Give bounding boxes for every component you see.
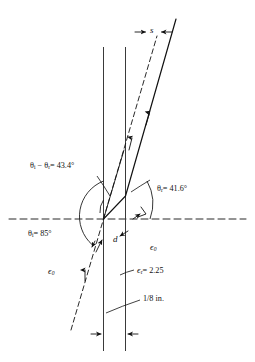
optics-ray-diagram: θi − θr= 43.4° θr= 41.6° θi= 85° ϵ0 ϵ0 ϵ…: [0, 0, 255, 362]
theta-r-label: θr= 41.6°: [157, 184, 187, 193]
epsilon-0-right-label: ϵ0: [150, 242, 157, 253]
angle-difference-label: θi − θr= 43.4°: [30, 161, 74, 170]
s-label: s: [150, 25, 154, 35]
d-label: d: [113, 234, 118, 244]
thickness-label: 1/8 in.: [143, 294, 164, 303]
epsilon-r-value: 2.25: [149, 266, 163, 275]
theta-i-label: θi= 85°: [28, 229, 52, 238]
thickness-leader: [106, 300, 140, 313]
exit-ray-direction-arrow: [146, 113, 150, 125]
figure-root: θi − θr= 43.4° θr= 41.6° θi= 85° ϵ0 ϵ0 ϵ…: [0, 0, 255, 362]
theta-i-arc-arrow: [92, 241, 95, 247]
epsilon-0-right-sub: 0: [154, 247, 157, 253]
theta-r-leader: [131, 180, 150, 192]
internal-ray-direction-arrow: [129, 138, 132, 150]
epsilon-r-leader: [120, 270, 134, 275]
theta-r-angle-arc: [147, 181, 153, 219]
angle-difference-value: 43.4°: [57, 161, 75, 170]
epsilon-0-left-label: ϵ0: [48, 266, 55, 277]
theta-r-value: 41.6°: [169, 184, 187, 193]
d-dimension-arrow-right: [120, 231, 128, 236]
epsilon-r-label: ϵr= 2.25: [137, 265, 164, 276]
theta-i-value: 85°: [40, 229, 51, 238]
incident-ray: [71, 219, 104, 330]
right-angle-tick: [138, 207, 146, 217]
angle-difference-arc: [100, 200, 104, 213]
exit-ray: [126, 19, 177, 196]
epsilon-0-left-sub: 0: [52, 271, 55, 277]
